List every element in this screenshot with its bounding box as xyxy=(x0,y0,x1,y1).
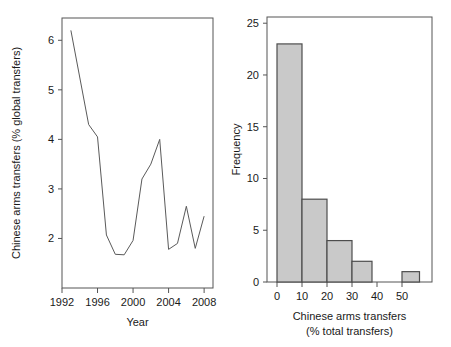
x-tick-label: 40 xyxy=(371,290,383,302)
x-tick-label: 2000 xyxy=(121,296,145,308)
x-axis-title: Year xyxy=(126,316,149,328)
x-tick-label: 20 xyxy=(321,290,333,302)
y-tick-label: 10 xyxy=(247,172,259,184)
x-tick-label: 2008 xyxy=(192,296,216,308)
x-tick-label: 1992 xyxy=(50,296,74,308)
y-axis-title: Chinese arms transfers (% global transfe… xyxy=(10,47,22,259)
y-tick-label: 5 xyxy=(253,224,259,236)
y-tick-label: 6 xyxy=(48,34,54,46)
histogram-bar xyxy=(402,272,420,282)
x-tick-label: 30 xyxy=(346,290,358,302)
histogram-bar xyxy=(277,44,302,282)
histogram-bar xyxy=(302,199,327,282)
x-tick-label: 0 xyxy=(274,290,280,302)
y-tick-label: 4 xyxy=(48,133,54,145)
x-tick-label: 1996 xyxy=(85,296,109,308)
x-axis-subtitle: (% total transfers) xyxy=(306,325,393,337)
y-tick-label: 20 xyxy=(247,69,259,81)
y-tick-label: 3 xyxy=(48,183,54,195)
x-tick-label: 2004 xyxy=(156,296,180,308)
x-tick-label: 10 xyxy=(296,290,308,302)
figure-container: 2345619921996200020042008YearChinese arm… xyxy=(0,0,451,347)
y-tick-label: 5 xyxy=(48,84,54,96)
histogram-panel: 051015202501020304050Chinese arms transf… xyxy=(226,0,451,347)
y-tick-label: 15 xyxy=(247,121,259,133)
plot-frame xyxy=(62,18,213,288)
y-tick-label: 25 xyxy=(247,17,259,29)
histogram-svg: 051015202501020304050Chinese arms transf… xyxy=(226,0,451,347)
y-tick-label: 2 xyxy=(48,232,54,244)
y-tick-label: 0 xyxy=(253,276,259,288)
line-chart-svg: 2345619921996200020042008YearChinese arm… xyxy=(0,0,226,347)
x-axis-title: Chinese arms transfers xyxy=(293,310,407,322)
x-tick-label: 50 xyxy=(396,290,408,302)
histogram-bar xyxy=(352,261,372,282)
line-chart-panel: 2345619921996200020042008YearChinese arm… xyxy=(0,0,226,347)
y-axis-title: Frequency xyxy=(230,123,242,175)
line-series xyxy=(71,30,204,254)
histogram-bar xyxy=(327,241,352,282)
